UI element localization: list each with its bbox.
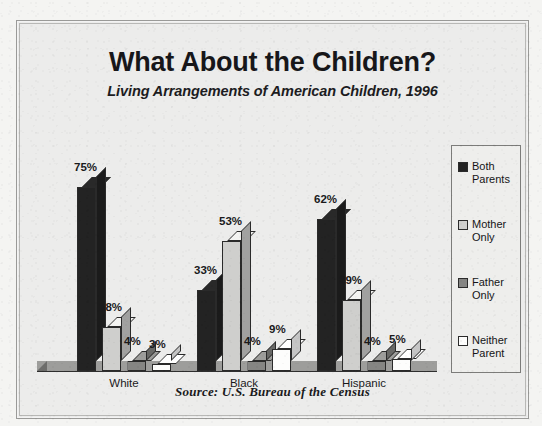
bar-value-label: 62% bbox=[314, 193, 337, 205]
bar-front-face bbox=[272, 349, 291, 371]
bar-front-face bbox=[317, 219, 336, 371]
legend-swatch-icon bbox=[458, 278, 468, 288]
bar-side-face bbox=[291, 329, 301, 361]
x-axis-tick bbox=[367, 361, 368, 371]
bar-value-label: 4% bbox=[124, 335, 141, 347]
legend-label-line2: Parents bbox=[472, 173, 510, 186]
legend-item-father[interactable]: FatherOnly bbox=[458, 276, 504, 301]
bar-value-label: 75% bbox=[74, 161, 97, 173]
chart-title: What About the Children? bbox=[17, 47, 528, 78]
bar-hispanic-mother-only bbox=[342, 300, 361, 371]
x-axis-tick bbox=[247, 361, 248, 371]
legend-label-line1: Mother bbox=[472, 218, 506, 231]
legend-label-line2: Parent bbox=[472, 347, 507, 360]
chart-legend: BothParentsMotherOnlyFatherOnlyNeitherPa… bbox=[451, 145, 521, 373]
bar-black-mother-only bbox=[222, 241, 241, 371]
legend-label: BothParents bbox=[472, 160, 510, 185]
chart-subtitle: Living Arrangements of American Children… bbox=[17, 83, 528, 99]
bar-black-neither-parent bbox=[272, 349, 291, 371]
bar-front-face bbox=[367, 361, 386, 371]
plot-area: 75%18%4%3%White33%53%4%9%Black62%29%4%5%… bbox=[37, 117, 437, 385]
legend-item-both[interactable]: BothParents bbox=[458, 160, 510, 185]
bar-value-label: 33% bbox=[194, 264, 217, 276]
legend-label: FatherOnly bbox=[472, 276, 504, 301]
legend-swatch-icon bbox=[458, 336, 468, 346]
bar-value-label: 9% bbox=[269, 323, 286, 335]
bar-front-face bbox=[342, 300, 361, 371]
legend-swatch-icon bbox=[458, 220, 468, 230]
bar-front-face bbox=[222, 241, 241, 371]
legend-label: NeitherParent bbox=[472, 334, 507, 359]
chart-page: What About the Children? Living Arrangem… bbox=[0, 0, 542, 426]
x-axis-tick bbox=[127, 361, 128, 371]
bar-front-face bbox=[392, 359, 411, 371]
chart-frame: What About the Children? Living Arrangem… bbox=[16, 20, 529, 419]
chart-source: Source: U.S. Bureau of the Census bbox=[17, 384, 528, 400]
bar-value-label: 5% bbox=[389, 333, 406, 345]
bar-value-label: 4% bbox=[364, 335, 381, 347]
legend-swatch-icon bbox=[458, 162, 468, 172]
legend-label-line1: Neither bbox=[472, 334, 507, 347]
bar-white-both-parents bbox=[77, 187, 96, 371]
bar-value-label: 4% bbox=[244, 335, 261, 347]
bar-value-label: 29% bbox=[339, 274, 362, 286]
legend-item-mother[interactable]: MotherOnly bbox=[458, 218, 506, 243]
bar-front-face bbox=[197, 290, 216, 371]
bar-hispanic-father-only bbox=[367, 361, 386, 371]
bar-white-father-only bbox=[127, 361, 146, 371]
legend-label-line2: Only bbox=[472, 231, 506, 244]
bar-hispanic-neither-parent bbox=[392, 359, 411, 371]
bar-side-face bbox=[121, 307, 131, 361]
bar-black-father-only bbox=[247, 361, 266, 371]
bar-white-mother-only bbox=[102, 327, 121, 371]
legend-label-line1: Both bbox=[472, 160, 510, 173]
bar-hispanic-both-parents bbox=[317, 219, 336, 371]
legend-label: MotherOnly bbox=[472, 218, 506, 243]
bar-front-face bbox=[247, 361, 266, 371]
bar-front-face bbox=[152, 364, 171, 371]
chart-floor-edge bbox=[37, 371, 437, 372]
bar-front-face bbox=[127, 361, 146, 371]
legend-label-line1: Father bbox=[472, 276, 504, 289]
bar-value-label: 3% bbox=[149, 338, 166, 350]
legend-item-neither[interactable]: NeitherParent bbox=[458, 334, 507, 359]
legend-label-line2: Only bbox=[472, 289, 504, 302]
bar-front-face bbox=[77, 187, 96, 371]
bar-value-label: 18% bbox=[99, 301, 122, 313]
bar-value-label: 53% bbox=[219, 215, 242, 227]
chart-floor-wedge bbox=[37, 361, 47, 371]
bar-side-face bbox=[361, 280, 371, 361]
bar-black-both-parents bbox=[197, 290, 216, 371]
bar-white-neither-parent bbox=[152, 364, 171, 371]
bar-front-face bbox=[102, 327, 121, 371]
